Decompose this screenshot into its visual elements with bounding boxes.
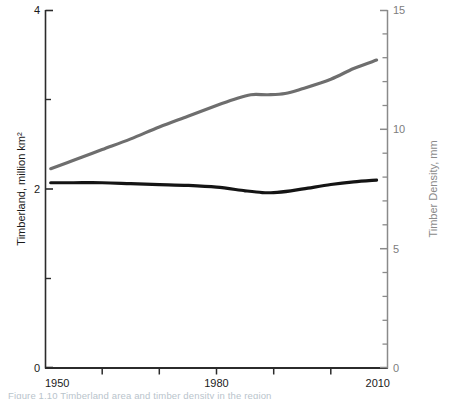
right-tick-label-5: 5 (393, 243, 399, 255)
axis-lines (45, 10, 388, 369)
right-tick-label-0: 0 (393, 362, 399, 374)
x-tick-label-1980: 1980 (204, 377, 228, 389)
x-tick-label-2010: 2010 (366, 377, 390, 389)
chart-svg: 4 2 0 Timberland, million km² (0, 0, 449, 399)
right-tick-label-10: 10 (393, 123, 405, 135)
right-axis-title: Timber Density, mm (427, 140, 439, 237)
left-tick-label-2: 2 (34, 183, 40, 195)
left-tick-label-4: 4 (34, 4, 40, 16)
x-tick-label-1950: 1950 (45, 377, 69, 389)
chart-figure: 4 2 0 Timberland, million km² (0, 0, 449, 399)
left-axis-ticks (46, 11, 54, 368)
right-tick-label-15: 15 (393, 4, 405, 16)
density-line (51, 60, 377, 169)
left-axis-title: Timberland, million km² (15, 132, 27, 246)
right-axis-ticks (380, 11, 388, 368)
data-series-layer (51, 60, 377, 193)
x-axis-ticks (102, 368, 331, 375)
figure-caption: Figure 1.10 Timberland area and timber d… (8, 390, 272, 399)
timberland-line (51, 180, 377, 193)
left-tick-label-0: 0 (34, 362, 40, 374)
